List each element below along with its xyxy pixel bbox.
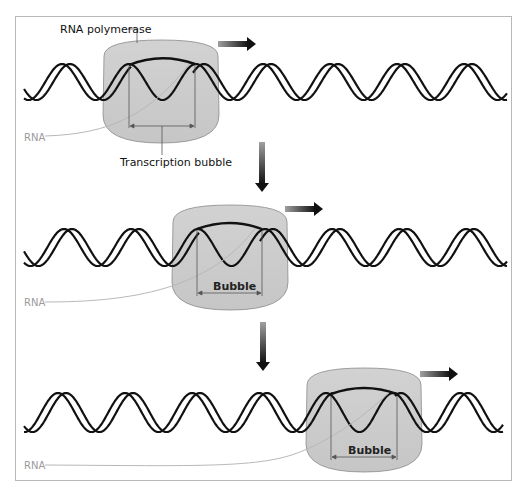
stage-1: RNA polymerase RNA Transcription bubble [24,23,507,169]
direction-arrow-1 [218,37,256,51]
down-arrow-2 [256,322,270,371]
label-transcription-bubble: Transcription bubble [119,156,232,169]
label-rna-2: RNA [24,297,45,308]
direction-arrow-2 [285,202,323,216]
label-rna-3: RNA [24,460,45,471]
label-rna-polymerase: RNA polymerase [60,23,152,36]
label-bubble-3: Bubble [348,444,391,457]
dna-helix-1 [24,64,507,100]
down-arrow-1 [255,142,269,192]
stage-3: Bubble RNA [24,367,503,472]
label-bubble-2: Bubble [213,280,256,293]
direction-arrow-3 [420,367,458,381]
stage-2: Bubble RNA [24,202,507,310]
rna-polymerase-shape [172,205,288,310]
transcription-diagram: RNA polymerase RNA Transcription bubble [0,0,527,496]
dna-helix-3 [24,393,503,432]
label-rna-1: RNA [24,132,45,143]
rna-polymerase-shape [103,40,219,143]
